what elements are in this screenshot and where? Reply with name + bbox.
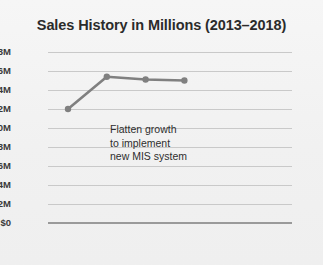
y-axis-tick-label: $18M <box>0 46 11 57</box>
chart-screenshot: Sales History in Millions (2013–2018) $1… <box>0 0 323 265</box>
chart-title: Sales History in Millions (2013–2018) <box>0 17 323 33</box>
flatten-growth-annotation: Flatten growth to implement new MIS syst… <box>110 123 187 164</box>
y-axis-tick-label: $6M <box>0 160 11 171</box>
gridline <box>48 204 292 205</box>
y-axis-tick-label: $10M <box>0 122 11 133</box>
annotation-line-1: Flatten growth <box>110 123 187 137</box>
gridline <box>48 71 292 72</box>
annotation-line-2: to implement <box>110 137 187 151</box>
gridline <box>48 52 292 53</box>
y-axis-tick-label: $14M <box>0 84 11 95</box>
gridline <box>48 109 292 110</box>
annotation-line-3: new MIS system <box>110 150 187 164</box>
gridline <box>48 185 292 186</box>
y-axis-tick-label: $4M <box>0 179 11 190</box>
y-axis-tick-label: $2M <box>0 198 11 209</box>
gridline <box>48 166 292 167</box>
y-axis-tick-label: $16M <box>0 65 11 76</box>
y-axis-tick-label: $0 <box>0 217 11 228</box>
y-axis-tick-label: $12M <box>0 103 11 114</box>
y-axis-tick-label: $8M <box>0 141 11 152</box>
x-axis-baseline <box>48 222 292 224</box>
gridline <box>48 90 292 91</box>
